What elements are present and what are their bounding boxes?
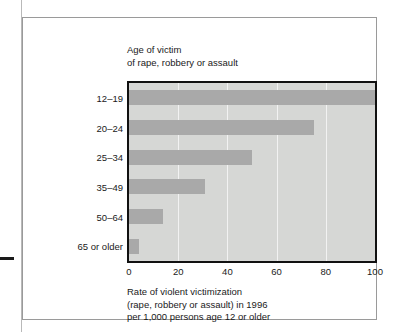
chart-header-line-2: of rape, robbery or assault — [127, 57, 238, 70]
bar-row — [129, 142, 375, 172]
chart-header: Age of victim of rape, robbery or assaul… — [127, 44, 238, 69]
x-axis-tick-label: 100 — [367, 266, 383, 277]
y-axis-label: 65 or older — [47, 241, 123, 252]
page-margin-dash — [0, 257, 14, 260]
x-axis-tick-label: 40 — [222, 266, 233, 277]
figure-frame: Age of victim of rape, robbery or assaul… — [22, 17, 377, 320]
chart-caption: Rate of violent victimization (rape, rob… — [127, 286, 270, 324]
y-axis-labels: 12–1920–2425–3435–4950–6465 or older — [47, 81, 123, 263]
bar-35-49 — [129, 179, 205, 194]
chart-header-line-1: Age of victim — [127, 44, 238, 57]
bar-row — [129, 231, 375, 261]
chart-caption-line-3: per 1,000 persons age 12 or older — [127, 311, 270, 324]
chart-caption-line-2: (rape, robbery or assault) in 1996 — [127, 299, 270, 312]
x-axis-tick-labels: 020406080100 — [127, 266, 377, 280]
x-axis-tick-label: 20 — [173, 266, 184, 277]
bar-row — [129, 113, 375, 143]
bar-row — [129, 202, 375, 232]
bar-20-24 — [129, 120, 314, 135]
x-axis-tick-label: 0 — [126, 266, 131, 277]
bar-25-34 — [129, 150, 252, 165]
y-axis-label: 12–19 — [47, 92, 123, 103]
bar-50-64 — [129, 209, 163, 224]
y-axis-label: 25–34 — [47, 152, 123, 163]
chart-caption-line-1: Rate of violent victimization — [127, 286, 270, 299]
x-axis-tick-label: 80 — [321, 266, 332, 277]
plot-area — [127, 81, 377, 263]
bar-row — [129, 83, 375, 113]
y-axis-label: 20–24 — [47, 122, 123, 133]
bar-row — [129, 172, 375, 202]
bar-65-or-older — [129, 239, 139, 254]
x-axis-tick-label: 60 — [271, 266, 282, 277]
bar-12-19 — [129, 90, 375, 105]
y-axis-label: 35–49 — [47, 181, 123, 192]
y-axis-label: 50–64 — [47, 211, 123, 222]
